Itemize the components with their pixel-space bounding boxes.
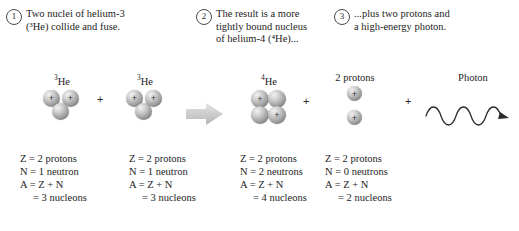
group-two-protons: 2 protons [320,72,390,128]
stat-line-a: A = Z + N [20,178,87,191]
element-symbol: He [265,76,277,87]
stat-line-n: N = 1 neutron [20,165,87,178]
element-symbol: He [141,76,153,87]
proton [251,90,269,108]
neutron [52,103,69,120]
neutron [268,90,286,108]
stat-line-z: Z = 2 protons [325,152,392,165]
proton [268,106,286,124]
proton [347,86,362,101]
element-symbol: He [58,76,70,87]
fusion-diagram: 1 Two nuclei of helium-3 (³He) collide a… [0,0,519,231]
group-helium-3-left: 3He [30,72,94,126]
label-helium-3-right: 3He [113,72,177,88]
stat-line-n: N = 1 neutron [129,165,196,178]
neutron [135,103,152,120]
group-photon: Photon [440,72,506,86]
plus-separator-1: + [97,94,103,105]
stat-line-total: = 4 nucleons [240,191,307,204]
callout-text-3: ...plus two protons and a high-energy ph… [354,8,450,33]
callout-step-3: 3 ...plus two protons and a high-energy … [334,8,504,33]
neutron [251,106,269,124]
stat-line-n: N = 2 neutrons [240,165,307,178]
stats-helium-3-left: Z = 2 protons N = 1 neutron A = Z + N = … [20,152,87,204]
stat-line-a: A = Z + N [129,178,196,191]
label-helium-3-left: 3He [30,72,94,88]
callout-text-1: Two nuclei of helium-3 (³He) collide and… [26,8,125,33]
stat-line-z: Z = 2 protons [20,152,87,165]
stats-helium-4: Z = 2 protons N = 2 neutrons A = Z + N =… [240,152,307,204]
label-photon: Photon [440,72,506,84]
block-arrow-right-icon [186,102,224,126]
nucleus-helium-3-left [39,90,85,126]
stat-line-z: Z = 2 protons [240,152,307,165]
nucleus-helium-4 [248,90,290,128]
step-number-badge-3: 3 [334,9,350,25]
plus-separator-2: + [303,96,309,107]
callout-step-1: 1 Two nuclei of helium-3 (³He) collide a… [6,8,186,33]
group-helium-3-right: 3He [113,72,177,126]
stat-line-a: A = Z + N [325,178,392,191]
free-protons [334,86,376,128]
stat-line-z: Z = 2 protons [129,152,196,165]
stats-two-protons: Z = 2 protons N = 0 neutrons A = Z + N =… [325,152,392,204]
stat-line-total: = 2 nucleons [325,191,392,204]
step-number-badge-2: 2 [196,9,212,25]
stat-line-a: A = Z + N [240,178,307,191]
group-helium-4: 4He [237,72,301,128]
proton [347,110,362,125]
stat-line-n: N = 0 neutrons [325,165,392,178]
stat-line-total: = 3 nucleons [20,191,87,204]
stat-line-total: = 3 nucleons [129,191,196,204]
stats-helium-3-right: Z = 2 protons N = 1 neutron A = Z + N = … [129,152,196,204]
label-helium-4: 4He [237,72,301,88]
plus-separator-3: + [405,96,411,107]
callout-text-2: The result is a more tightly bound nucle… [216,8,307,46]
sine-wave-arrow-icon [424,100,512,126]
label-two-protons: 2 protons [320,72,390,84]
callout-step-2: 2 The result is a more tightly bound nuc… [196,8,346,46]
reaction-row: 3He + 3He [0,72,519,146]
nucleus-helium-3-right [122,90,168,126]
step-number-badge-1: 1 [6,9,22,25]
